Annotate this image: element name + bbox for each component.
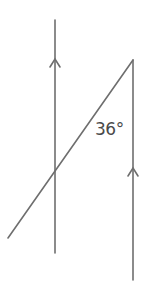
angle-label: 36° bbox=[95, 121, 124, 138]
parallel-lines-diagram bbox=[0, 0, 153, 285]
transversal-line bbox=[8, 60, 133, 238]
